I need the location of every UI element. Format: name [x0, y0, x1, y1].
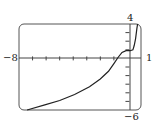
x-max-label: 1 [146, 53, 152, 63]
function-curve [27, 24, 138, 110]
y-axis-ticks [125, 33, 129, 102]
y-max-label: 4 [127, 13, 133, 23]
x-min-label: −8 [3, 53, 18, 63]
y-min-label: −6 [124, 112, 139, 122]
graph-plot [0, 0, 157, 123]
viewing-window-frame [19, 24, 141, 110]
